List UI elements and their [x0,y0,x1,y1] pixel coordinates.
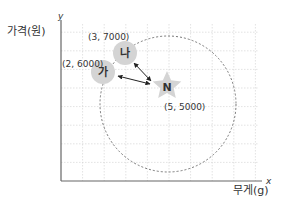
distance-arrow-ga [118,76,150,84]
point-na-label: 나 [120,46,130,60]
y-axis-var: y [57,11,64,21]
y-axis-label: 가격(원) [7,25,46,38]
point-n-coord: (5, 5000) [164,102,205,112]
point-n-label: N [162,81,171,94]
point-ga-coord: (2, 6000) [62,59,103,69]
grid [61,24,259,181]
point-na-coord: (3, 7000) [88,32,129,42]
x-axis-label: 무게(g) [233,184,269,197]
distance-arrow-na [134,63,151,81]
knn-diagram: y 가격(원) x 무게(g) 가 (2, 6000) 나 (3, 7000) … [0,0,294,207]
